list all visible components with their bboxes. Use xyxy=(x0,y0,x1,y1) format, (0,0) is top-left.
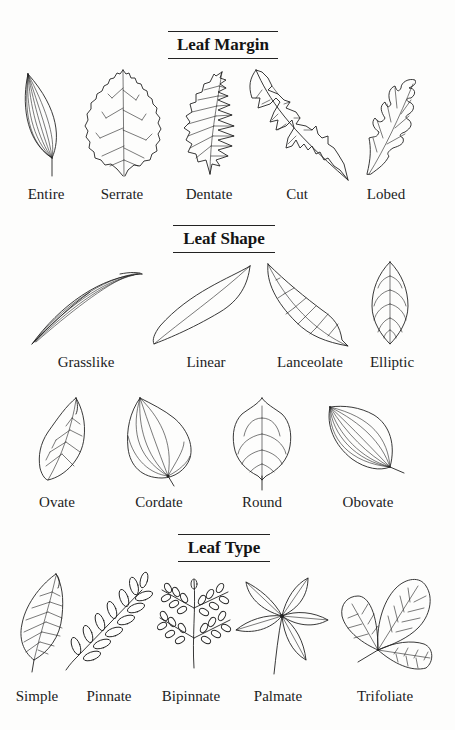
pinnate-leaf-icon xyxy=(62,572,152,672)
simple-leaf-icon xyxy=(18,572,66,674)
label-cut: Cut xyxy=(286,186,308,203)
round-leaf-icon xyxy=(232,396,292,492)
section-title-leaf-shape: Leaf Shape xyxy=(173,225,275,253)
section-title-leaf-type: Leaf Type xyxy=(178,534,270,562)
linear-leaf-icon xyxy=(150,264,252,346)
ovate-leaf-icon xyxy=(36,396,88,482)
label-cordate: Cordate xyxy=(135,494,182,511)
label-pinnate: Pinnate xyxy=(87,688,132,705)
cut-leaf-icon xyxy=(248,68,353,184)
serrate-leaf-icon xyxy=(82,68,164,178)
obovate-leaf-icon xyxy=(326,405,406,475)
entire-leaf-icon xyxy=(22,70,67,180)
label-lobed: Lobed xyxy=(367,186,405,203)
lanceolate-leaf-icon xyxy=(266,262,351,347)
label-trifoliate: Trifoliate xyxy=(357,688,413,705)
palmate-leaf-icon xyxy=(234,576,330,676)
label-ovate: Ovate xyxy=(39,494,75,511)
bipinnate-leaf-icon xyxy=(156,578,232,670)
label-simple: Simple xyxy=(16,688,59,705)
label-bipinnate: Bipinnate xyxy=(162,688,220,705)
dentate-leaf-icon xyxy=(180,70,240,178)
lobed-leaf-icon xyxy=(365,78,425,178)
grasslike-leaf-icon xyxy=(30,266,145,346)
elliptic-leaf-icon xyxy=(370,260,410,346)
cordate-leaf-icon xyxy=(124,396,194,486)
label-obovate: Obovate xyxy=(343,494,394,511)
label-linear: Linear xyxy=(186,354,225,371)
section-title-leaf-margin: Leaf Margin xyxy=(168,31,278,59)
label-lanceolate: Lanceolate xyxy=(277,354,343,371)
label-dentate: Dentate xyxy=(186,186,233,203)
trifoliate-leaf-icon xyxy=(338,572,438,672)
label-entire: Entire xyxy=(28,186,65,203)
label-grasslike: Grasslike xyxy=(58,354,115,371)
label-palmate: Palmate xyxy=(254,688,302,705)
label-elliptic: Elliptic xyxy=(370,354,414,371)
label-round: Round xyxy=(242,494,282,511)
label-serrate: Serrate xyxy=(101,186,143,203)
